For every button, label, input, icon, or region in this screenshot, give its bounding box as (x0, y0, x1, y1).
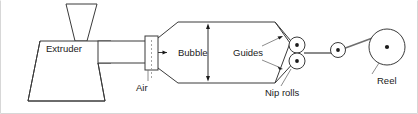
guides-leader-lower-arrowhead (278, 67, 283, 70)
bubble-dimension-arrow-top (206, 24, 210, 30)
label-bubble: Bubble (178, 48, 208, 58)
reel-leader (372, 63, 379, 74)
blown-film-extrusion-diagram: Extruder Air Bubble Guides Nip rolls Ree… (0, 0, 418, 114)
reel-center-dot (385, 45, 389, 49)
nip-roll-lower-center-dot (295, 59, 299, 63)
hopper-shape (66, 4, 97, 41)
melt-flow-arrowhead (163, 50, 168, 54)
label-reel: Reel (377, 76, 397, 86)
guides-leader-upper (262, 37, 281, 46)
nip-roll-upper-center-dot (295, 43, 299, 47)
label-air: Air (136, 83, 148, 93)
guides-leader-lower (262, 60, 281, 68)
guides-leader-upper-arrowhead (278, 36, 284, 40)
label-extruder: Extruder (46, 44, 82, 54)
label-guides: Guides (233, 48, 263, 58)
idler-roll-center-dot (336, 48, 340, 52)
label-nip-rolls: Nip rolls (265, 88, 299, 98)
diagram-canvas (0, 0, 418, 114)
extruder-barrel-shape (98, 41, 146, 63)
bubble-dimension-arrow-bottom (206, 76, 210, 82)
